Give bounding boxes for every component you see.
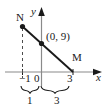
- point-y-intercept-label: (0, 9): [46, 31, 70, 42]
- x-tick-label-zero: 0: [34, 73, 40, 84]
- brace-group: [21, 86, 69, 94]
- point-M-label: M: [72, 52, 82, 63]
- left-brace-label: 1: [27, 95, 33, 106]
- right-brace-label: 3: [54, 95, 60, 106]
- x-tick-label-three: 3: [67, 73, 73, 84]
- left-brace: [21, 86, 39, 94]
- point-N-label: N: [16, 12, 24, 23]
- y-axis-label: y: [31, 6, 36, 17]
- right-brace: [41, 86, 69, 94]
- figure-container: y x N M (0, 9) −1 0 3 1 3: [0, 0, 109, 109]
- x-axis-label: x: [96, 72, 101, 83]
- point-N-marker: [20, 24, 25, 29]
- point-y-intercept-marker: [39, 41, 44, 46]
- x-tick-label-minus-1: −1: [19, 73, 31, 84]
- y-axis-arrowhead: [38, 7, 45, 16]
